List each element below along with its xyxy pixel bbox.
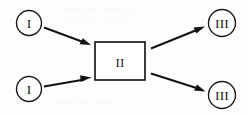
arrowhead-icon <box>194 84 206 91</box>
node-input-bottom[interactable]: I <box>17 77 42 102</box>
node-label: I <box>27 16 32 31</box>
node-output-bottom[interactable]: III <box>209 82 236 109</box>
edge-line <box>44 80 85 87</box>
node-label: III <box>215 88 229 103</box>
node-output-top[interactable]: III <box>209 10 236 37</box>
svg-text:—— — ——: —— — —— <box>55 96 116 108</box>
node-label: I <box>27 82 32 97</box>
arrowhead-icon <box>80 38 92 45</box>
arrowhead-icon <box>80 75 91 82</box>
edge-line <box>151 74 198 89</box>
node-label: III <box>215 16 229 31</box>
edge-line <box>151 30 198 49</box>
edge-input-bottom-to-process <box>44 75 92 86</box>
node-process[interactable]: II <box>95 42 145 80</box>
edge-process-to-output-top <box>151 27 205 49</box>
svg-text:— —— — —: — —— — — <box>65 14 129 26</box>
svg-text:—— — —— —: —— — —— — <box>61 1 136 13</box>
diagram-canvas: —— — —— — — —— — — —— — —— I I <box>0 0 249 114</box>
edge-process-to-output-bottom <box>151 74 206 92</box>
flow-diagram: —— — —— — — —— — — —— — —— I I <box>0 0 249 114</box>
node-label: II <box>115 55 124 70</box>
node-input-top[interactable]: I <box>17 11 42 36</box>
edge-line <box>44 28 85 43</box>
arrowhead-icon <box>194 27 206 34</box>
edge-input-top-to-process <box>44 28 91 46</box>
